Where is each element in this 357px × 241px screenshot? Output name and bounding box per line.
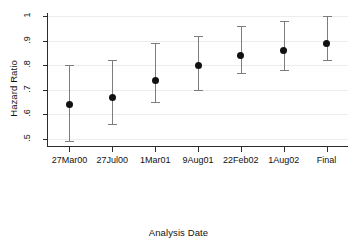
error-bar-line (112, 60, 113, 124)
data-point-marker (152, 77, 159, 84)
x-tick-mark (198, 147, 199, 152)
y-axis-title: Hazard Ratio (8, 39, 19, 139)
error-bar-cap-upper (194, 36, 203, 37)
error-bar-cap-lower (323, 60, 332, 61)
x-tick-mark (241, 147, 242, 152)
error-bar-cap-upper (108, 60, 117, 61)
error-bar-cap-upper (237, 26, 246, 27)
error-bar-cap-lower (280, 70, 289, 71)
y-tick-label: .5 (22, 125, 32, 151)
error-bar-line (284, 21, 285, 70)
x-axis-line (47, 146, 348, 147)
x-tick-mark (155, 147, 156, 152)
hazard-ratio-chart: Hazard Ratio Analysis Date 1.9.8.7.6.5 2… (0, 0, 357, 241)
y-tick-label: .9 (22, 27, 32, 53)
error-bar-cap-lower (108, 124, 117, 125)
error-bar-cap-lower (151, 102, 160, 103)
error-bar-cap-lower (237, 73, 246, 74)
y-tick-label: .8 (22, 51, 32, 77)
data-point-marker (66, 101, 73, 108)
data-point-marker (109, 94, 116, 101)
x-tick-label: Final (292, 155, 357, 165)
x-tick-mark (327, 147, 328, 152)
error-bar-cap-upper (280, 21, 289, 22)
data-point-marker (195, 62, 202, 69)
error-bar-line (155, 43, 156, 102)
y-tick-label: .6 (22, 100, 32, 126)
error-bar-line (241, 26, 242, 72)
error-bar-cap-lower (65, 141, 74, 142)
error-bar-cap-lower (194, 90, 203, 91)
error-bar-cap-upper (151, 43, 160, 44)
x-tick-mark (69, 147, 70, 152)
data-point-marker (323, 40, 330, 47)
x-tick-mark (112, 147, 113, 152)
y-tick-label: 1 (22, 2, 32, 28)
data-point-marker (280, 47, 287, 54)
data-point-marker (237, 52, 244, 59)
x-axis-title: Analysis Date (0, 227, 357, 238)
error-bar-cap-upper (323, 16, 332, 17)
x-tick-mark (284, 147, 285, 152)
error-bar-line (327, 16, 328, 60)
error-bar-cap-upper (65, 65, 74, 66)
y-tick-label: .7 (22, 76, 32, 102)
data-series (48, 14, 348, 146)
